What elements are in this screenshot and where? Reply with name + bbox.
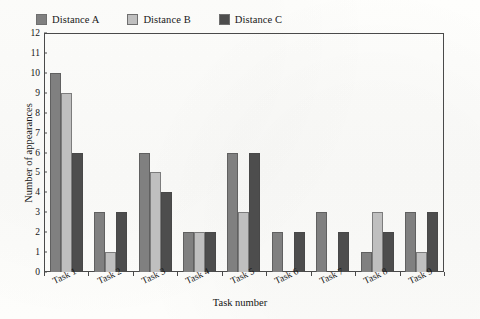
- bar: [405, 212, 416, 272]
- y-axis-tick-label: 10: [31, 68, 41, 78]
- x-axis-tick-mark: [444, 272, 445, 276]
- bar: [94, 212, 105, 272]
- y-axis: 1211109876543210: [0, 33, 44, 272]
- bar-group: [311, 33, 355, 272]
- legend-swatch-distance-b: [127, 14, 138, 25]
- y-axis-tick-label: 8: [35, 108, 40, 118]
- bar-group: [400, 33, 444, 272]
- bar: [139, 153, 150, 273]
- bar-group: [222, 33, 266, 272]
- legend-label-distance-a: Distance A: [52, 14, 99, 25]
- legend-item-distance-a: Distance A: [36, 14, 99, 25]
- bar-group: [133, 33, 177, 272]
- y-axis-tick-label: 1: [35, 247, 40, 257]
- y-axis-tick-label: 11: [31, 48, 40, 58]
- bar: [361, 252, 372, 272]
- legend-item-distance-c: Distance C: [219, 14, 282, 25]
- chart-legend: Distance A Distance B Distance C: [36, 14, 310, 25]
- legend-swatch-distance-a: [36, 14, 47, 25]
- bar: [427, 212, 438, 272]
- y-axis-tick-label: 12: [31, 28, 41, 38]
- bar: [194, 232, 205, 272]
- bar: [150, 172, 161, 272]
- bar: [72, 153, 83, 273]
- y-axis-tick-label: 3: [35, 207, 40, 217]
- y-axis-tick-label: 7: [35, 128, 40, 138]
- bar: [50, 73, 61, 272]
- bar: [249, 153, 260, 273]
- legend-item-distance-b: Distance B: [127, 14, 190, 25]
- y-axis-tick-label: 2: [35, 227, 40, 237]
- bar: [227, 153, 238, 273]
- bar-group: [177, 33, 221, 272]
- bar: [161, 192, 172, 272]
- bar: [61, 93, 72, 272]
- bar-group: [44, 33, 88, 272]
- bar: [372, 212, 383, 272]
- bar-group: [88, 33, 132, 272]
- bar: [116, 212, 127, 272]
- bar-group: [266, 33, 310, 272]
- bar: [316, 212, 327, 272]
- y-axis-tick-label: 6: [35, 148, 40, 158]
- y-axis-tick-label: 9: [35, 88, 40, 98]
- bar: [183, 232, 194, 272]
- x-axis-title: Task number: [0, 297, 480, 308]
- y-axis-tick-label: 5: [35, 167, 40, 177]
- legend-swatch-distance-c: [219, 14, 230, 25]
- bar-series-container: [44, 33, 444, 272]
- bar-group: [355, 33, 399, 272]
- y-axis-tick-label: 4: [35, 187, 40, 197]
- bar: [272, 232, 283, 272]
- legend-label-distance-c: Distance C: [235, 14, 282, 25]
- legend-label-distance-b: Distance B: [143, 14, 190, 25]
- bar: [238, 212, 249, 272]
- y-axis-tick-label: 0: [35, 267, 40, 277]
